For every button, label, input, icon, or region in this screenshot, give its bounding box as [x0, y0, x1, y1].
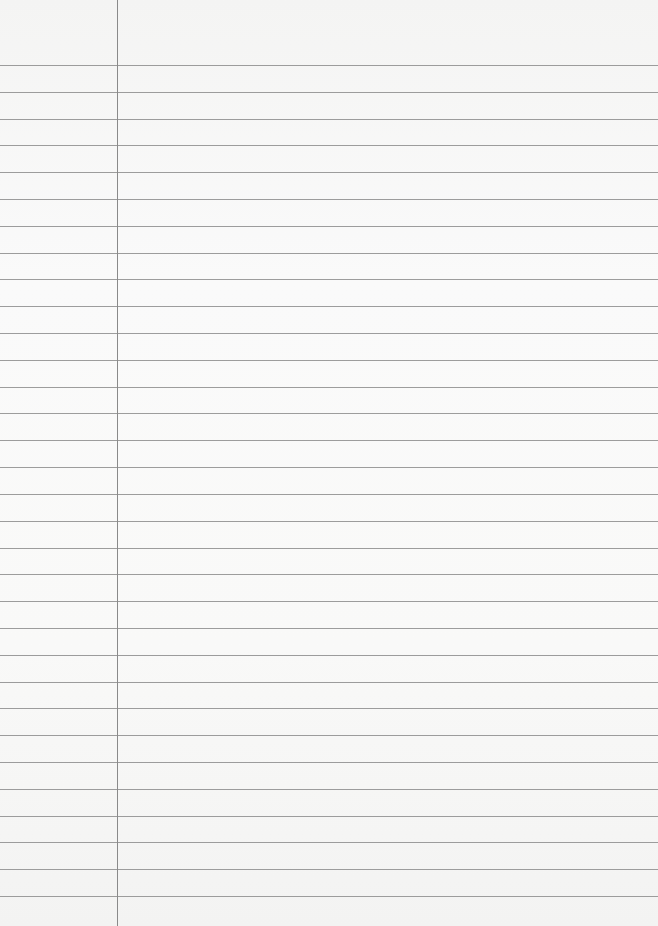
- ruled-line: [0, 145, 658, 146]
- ruled-line: [0, 413, 658, 414]
- ruled-line: [0, 226, 658, 227]
- ruled-line: [0, 708, 658, 709]
- ruled-line: [0, 253, 658, 254]
- ruled-line: [0, 869, 658, 870]
- ruled-line: [0, 306, 658, 307]
- ruled-line: [0, 333, 658, 334]
- ruled-line: [0, 172, 658, 173]
- ruled-line: [0, 655, 658, 656]
- ruled-line: [0, 601, 658, 602]
- margin-line: [117, 0, 118, 926]
- ruled-line: [0, 279, 658, 280]
- ruled-line: [0, 65, 658, 66]
- ruled-line: [0, 387, 658, 388]
- ruled-line: [0, 467, 658, 468]
- ruled-line: [0, 896, 658, 897]
- ruled-line: [0, 521, 658, 522]
- ruled-line: [0, 574, 658, 575]
- ruled-line: [0, 548, 658, 549]
- ruled-line: [0, 735, 658, 736]
- ruled-line: [0, 199, 658, 200]
- lined-paper-sheet: [0, 0, 658, 926]
- ruled-line: [0, 628, 658, 629]
- ruled-line: [0, 440, 658, 441]
- ruled-line: [0, 92, 658, 93]
- ruled-line: [0, 494, 658, 495]
- ruled-line: [0, 762, 658, 763]
- ruled-line: [0, 682, 658, 683]
- ruled-line: [0, 360, 658, 361]
- ruled-line: [0, 119, 658, 120]
- ruled-line: [0, 842, 658, 843]
- ruled-line: [0, 789, 658, 790]
- ruled-line: [0, 816, 658, 817]
